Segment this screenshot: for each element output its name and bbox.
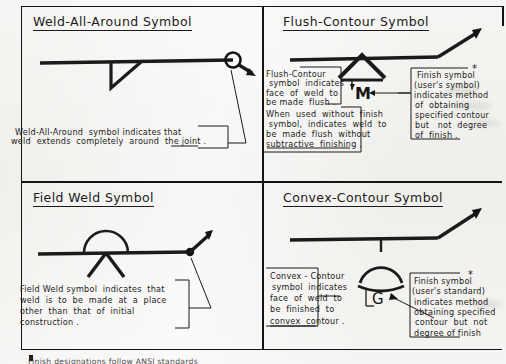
caption-weld-all-around-line-2: weld extends completely around the joint… [11, 137, 206, 146]
finish-note-convex-line-4: obtaining specified [414, 308, 496, 317]
caption-field-weld-line-4: construction . [20, 318, 79, 327]
caption-convex-contour-line-5: convex contour . [270, 317, 345, 326]
title-weld-all-around: Weld-All-Around Symbol [33, 14, 192, 31]
finish-note-flush-line-7: of finish . [415, 131, 458, 140]
caption-convex-contour-line-1: Convex - Contour [270, 272, 345, 281]
caption-field-weld-line-2: weld is to be made at a place [20, 296, 167, 305]
plate-border-right-stub [502, 6, 504, 26]
finish-asterisk-convex: * [468, 270, 473, 279]
finish-note-convex-line-1: Finish symbol [414, 277, 472, 286]
finish-note-flush-line-4: of obtaining [415, 101, 469, 110]
finish-note-convex-line-3: indicates method [414, 298, 488, 307]
finish-note-convex-line-5: contour but not [415, 318, 487, 327]
finish-note-flush-line-1: Finish symbol [417, 71, 475, 80]
finish-note-flush-line-5: specified contour [415, 111, 489, 120]
caption-convex-contour-line-4: be finished to [270, 305, 334, 314]
caption-field-weld-line-1: Field Weld symbol indicates that [20, 285, 165, 294]
caption-flush-contour-line-8: subtractive finishing . [266, 140, 362, 149]
finish-note-flush-line-6: but not degree [415, 121, 487, 130]
caption-flush-contour-line-4: be made flush . [266, 98, 336, 107]
finish-note-flush-line-2: (user's symbol) [414, 81, 480, 90]
caption-flush-contour-line-5: When used without finish [266, 110, 383, 119]
caption-convex-contour-line-2: symbol indicates [272, 283, 347, 292]
finish-note-flush-line-3: indicates method [414, 91, 488, 100]
title-field-weld: Field Weld Symbol [33, 190, 154, 207]
finish-asterisk-flush: * [472, 64, 477, 73]
caption-field-weld-line-3: other than that of initial [20, 307, 135, 316]
caption-flush-contour-line-7: be made flush without [266, 130, 371, 139]
caption-flush-contour-line-2: symbol indicates [269, 79, 344, 88]
finish-note-convex-line-6: degree of finish [414, 329, 481, 338]
welding-symbols-plate: Weld-All-Around Symbol Flush-Contour Sym… [0, 0, 506, 364]
convex-contour-finish-letter: G [372, 290, 384, 308]
caption-flush-contour-line-6: symbol, indicates weld to [266, 120, 387, 129]
title-convex-contour: Convex-Contour Symbol [283, 190, 443, 207]
flush-contour-finish-letter: M [355, 84, 371, 103]
caption-convex-contour-line-3: face of weld to [270, 294, 342, 303]
finish-note-convex-line-2: (user's standard) [412, 287, 485, 296]
footnote-text: Finish designations follow ANSI standard… [28, 357, 198, 364]
vertical-divider [262, 6, 264, 350]
title-flush-contour: Flush-Contour Symbol [283, 14, 429, 31]
